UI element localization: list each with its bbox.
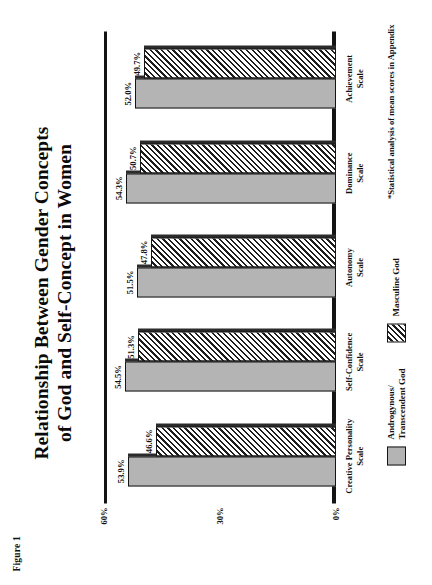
bar-group-autonomy: 51.5% 47.8% bbox=[104, 226, 336, 308]
category-sub: Scale bbox=[355, 320, 366, 402]
legend-label-line2: Transcendent God bbox=[397, 368, 408, 439]
category-name: Creative Personality bbox=[344, 418, 354, 493]
bar-masculine-autonomy[interactable]: 47.8% bbox=[151, 237, 336, 267]
category-sub: Scale bbox=[355, 226, 366, 308]
bar-value-label: 51.3% bbox=[126, 335, 136, 359]
bar-value-label: 46.6% bbox=[144, 429, 154, 453]
category-sub: Scale bbox=[355, 132, 366, 214]
legend-item-masculine[interactable]: Masculine God bbox=[387, 258, 406, 342]
chart-title: Relationship Between Gender Concepts of … bbox=[30, 0, 76, 585]
category-label-dominance: Dominance Scale bbox=[344, 132, 365, 214]
category-name: Autonomy bbox=[344, 248, 354, 287]
bar-androgynous-achievement[interactable]: 52.0% bbox=[135, 78, 336, 108]
category-name: Achievement bbox=[344, 54, 354, 102]
bar-group-dominance: 54.3% 50.7% bbox=[104, 132, 336, 214]
bar-androgynous-creative-personality[interactable]: 53.9% bbox=[128, 456, 336, 486]
legend-label-line1: Androgynous/ bbox=[386, 385, 396, 439]
y-tick-30: 30% bbox=[215, 507, 225, 537]
bar-value-label: 49.7% bbox=[132, 51, 142, 75]
bar-group-achievement: 52.0% 49.7% bbox=[104, 37, 336, 119]
category-name: Dominance bbox=[344, 152, 354, 194]
y-tick-60: 60% bbox=[99, 507, 109, 537]
legend-label-masculine: Masculine God bbox=[391, 258, 402, 316]
bar-value-label: 53.9% bbox=[116, 459, 126, 483]
category-sub: Scale bbox=[355, 37, 366, 119]
category-sub: Scale bbox=[355, 415, 366, 497]
legend-label-line1: Masculine God bbox=[391, 258, 401, 316]
bar-masculine-creative-personality[interactable]: 46.6% bbox=[156, 426, 336, 456]
bar-androgynous-autonomy[interactable]: 51.5% bbox=[137, 267, 336, 297]
y-tick-0: 0% bbox=[331, 507, 341, 537]
plot-area: 60% 30% 0% 53.9% 46.6% 54.5% 51.3% bbox=[104, 31, 336, 503]
figure-label: Figure 1 bbox=[12, 536, 22, 571]
figure-page: Figure 1 Relationship Between Gender Con… bbox=[0, 0, 432, 585]
category-label-achievement: Achievement Scale bbox=[344, 37, 365, 119]
category-label-self-confidence: Self-Confidence Scale bbox=[344, 320, 365, 402]
bar-value-label: 50.7% bbox=[128, 146, 138, 170]
bar-masculine-self-confidence[interactable]: 51.3% bbox=[138, 331, 336, 361]
category-label-autonomy: Autonomy Scale bbox=[344, 226, 365, 308]
chart-title-line2: of God and Self-Concept in Women bbox=[53, 0, 76, 585]
bar-masculine-dominance[interactable]: 50.7% bbox=[140, 143, 336, 173]
category-axis-labels: Creative Personality Scale Self-Confiden… bbox=[344, 31, 365, 503]
category-label-creative-personality: Creative Personality Scale bbox=[344, 415, 365, 497]
bar-value-label: 54.5% bbox=[113, 365, 123, 389]
bar-group-creative-personality: 53.9% 46.6% bbox=[104, 415, 336, 497]
legend-item-androgynous[interactable]: Androgynous/ Transcendent God bbox=[386, 368, 408, 465]
footnote: *Statistical analysis of mean scores in … bbox=[386, 24, 396, 199]
bar-value-label: 52.0% bbox=[123, 81, 133, 105]
bar-value-label: 54.3% bbox=[114, 176, 124, 200]
chart-title-line1: Relationship Between Gender Concepts bbox=[31, 126, 52, 459]
legend-swatch-solid-gray-icon bbox=[387, 446, 406, 465]
bar-masculine-achievement[interactable]: 49.7% bbox=[144, 48, 336, 78]
legend-swatch-diagonal-hatch-icon bbox=[387, 323, 406, 342]
category-name: Self-Confidence bbox=[344, 332, 354, 390]
bar-androgynous-dominance[interactable]: 54.3% bbox=[126, 173, 336, 203]
bar-value-label: 51.5% bbox=[125, 270, 135, 294]
bar-androgynous-self-confidence[interactable]: 54.5% bbox=[125, 361, 336, 391]
bar-value-label: 47.8% bbox=[139, 240, 149, 264]
bar-group-self-confidence: 54.5% 51.3% bbox=[104, 320, 336, 402]
legend-label-androgynous: Androgynous/ Transcendent God bbox=[386, 368, 408, 439]
bar-groups: 53.9% 46.6% 54.5% 51.3% 51.5% bbox=[104, 31, 336, 503]
chart-legend: Androgynous/ Transcendent God Masculine … bbox=[386, 258, 408, 465]
